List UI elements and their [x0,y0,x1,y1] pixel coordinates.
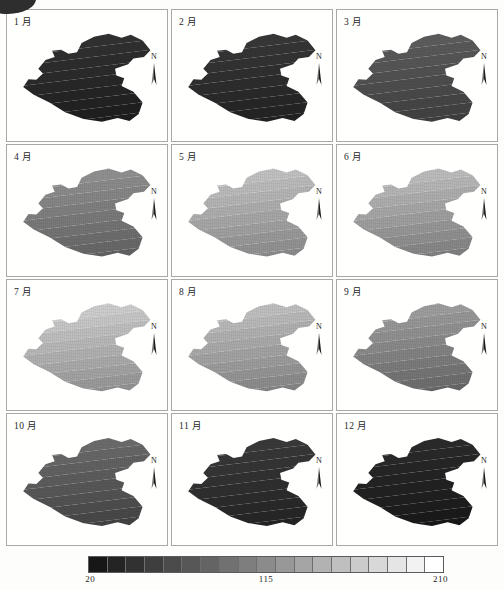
panel-label: 7 月 [14,284,33,298]
elevation-band [352,390,482,397]
colorbar-segment [220,557,239,572]
colorbar-tick-labels: 20 115 210 [88,574,444,588]
colorbar-segment [351,557,370,572]
map-panel-8: 8 月N [171,279,333,412]
north-letter: N [316,53,322,61]
colorbar-segment [257,557,276,572]
north-needle-icon [315,467,324,491]
north-needle-icon [315,198,324,222]
elevation-band [352,525,482,532]
colorbar-segment [239,557,258,572]
north-letter: N [481,53,487,61]
map-region [337,414,497,545]
north-needle-icon [480,63,489,87]
map-region [337,145,497,276]
figure-root: 1 月N2 月N3 月N4 月N5 月N6 月N7 月N8 月N9 月N10 月… [0,0,504,590]
map-region [172,10,332,141]
colorbar-segment [108,557,127,572]
map-panel-6: 6 月N [336,144,498,277]
map-region [7,145,167,276]
north-letter: N [316,323,322,331]
north-arrow-icon: N [312,189,326,223]
north-arrow-icon: N [147,324,161,358]
colorbar-segment [145,557,164,572]
north-arrow-icon: N [147,189,161,223]
north-needle-icon [150,333,159,357]
region-polygon [21,435,152,532]
map-panel-7: 7 月N [6,279,168,412]
map-panel-10: 10 月N [6,413,168,546]
elevation-band [187,525,317,532]
north-letter: N [151,323,157,331]
map-region [172,145,332,276]
map-panel-3: 3 月N [336,9,498,142]
map-region [7,280,167,411]
map-panel-1: 1 月N [6,9,168,142]
north-arrow-icon: N [312,54,326,88]
colorbar-segment [388,557,407,572]
map-panel-4: 4 月N [6,144,168,277]
map-region [337,280,497,411]
colorbar-ramp [88,556,444,573]
colorbar-segment [201,557,220,572]
panel-label: 12 月 [344,418,368,432]
north-needle-icon [150,198,159,222]
region-polygon [351,166,482,263]
colorbar-max-label: 210 [433,574,448,584]
region-polygon [186,166,317,263]
panel-grid: 1 月N2 月N3 月N4 月N5 月N6 月N7 月N8 月N9 月N10 月… [6,9,498,546]
north-letter: N [316,188,322,196]
map-region [7,10,167,141]
colorbar-segment [126,557,145,572]
colorbar-mid-label: 115 [259,574,273,584]
north-needle-icon [150,467,159,491]
north-needle-icon [480,467,489,491]
region-polygon [351,300,482,397]
north-arrow-icon: N [477,189,491,223]
map-region [337,10,497,141]
map-region [172,414,332,545]
north-arrow-icon: N [147,458,161,492]
region-polygon [351,31,482,128]
region-polygon [351,435,482,532]
legend-colorbar: 20 115 210 [88,556,444,573]
north-arrow-icon: N [147,54,161,88]
elevation-band [187,390,317,397]
map-panel-2: 2 月N [171,9,333,142]
north-needle-icon [315,63,324,87]
north-arrow-icon: N [477,54,491,88]
north-letter: N [316,457,322,465]
elevation-band [22,255,152,262]
elevation-band [352,121,482,128]
north-letter: N [481,323,487,331]
panel-label: 3 月 [344,14,363,28]
north-needle-icon [480,198,489,222]
panel-label: 8 月 [179,284,198,298]
region-polygon [21,300,152,397]
north-arrow-icon: N [477,458,491,492]
panel-label: 4 月 [14,149,33,163]
map-panel-9: 9 月N [336,279,498,412]
colorbar-segment [407,557,426,572]
north-letter: N [481,188,487,196]
panel-label: 9 月 [344,284,363,298]
colorbar-segment [369,557,388,572]
elevation-band [352,255,482,262]
north-arrow-icon: N [312,458,326,492]
colorbar-segment [425,557,443,572]
panel-label: 5 月 [179,149,198,163]
map-panel-11: 11 月N [171,413,333,546]
colorbar-segment [164,557,183,572]
colorbar-segment [89,557,108,572]
panel-label: 11 月 [179,418,203,432]
panel-label: 10 月 [14,418,38,432]
panel-label: 6 月 [344,149,363,163]
panel-label: 2 月 [179,14,198,28]
region-polygon [186,31,317,128]
map-region [172,280,332,411]
region-polygon [186,435,317,532]
north-needle-icon [315,333,324,357]
colorbar-segment [295,557,314,572]
region-polygon [21,31,152,128]
colorbar-segment [276,557,295,572]
